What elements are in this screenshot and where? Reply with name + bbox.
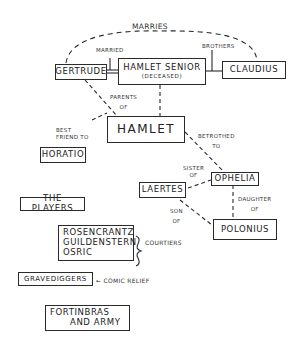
- node-hamlet: Hamlet: [107, 116, 185, 143]
- node-gravediggers: Gravediggers: [18, 272, 93, 286]
- label-married: Married: [96, 47, 124, 54]
- label-marries: Marries: [132, 22, 168, 32]
- label-of: of: [110, 104, 137, 111]
- node-gertrude: Gertrude: [55, 64, 107, 80]
- node-claudius: Claudius: [222, 61, 286, 79]
- label-sister: Sister: [183, 165, 204, 172]
- label-best-friend-to: Best friend to: [56, 127, 89, 141]
- hamlet-senior-note: (Deceased): [142, 73, 182, 79]
- label-son-of: Son of: [170, 208, 183, 225]
- label-sister-of: Sister of: [183, 165, 204, 179]
- node-horatio: Horatio: [40, 147, 86, 163]
- label-betrothed-to: Betrothed to: [198, 133, 235, 150]
- label-daughter-of-of: of: [238, 206, 271, 213]
- node-hamlet-senior: Hamlet Senior (Deceased): [118, 58, 206, 85]
- label-son-of-of: of: [170, 218, 183, 225]
- node-polonius: Polonius: [213, 219, 277, 240]
- label-parents: Parents: [110, 94, 137, 101]
- courtier-osric: Osric: [63, 248, 92, 258]
- label-to: to: [198, 143, 235, 150]
- label-parents-of: Parents of: [110, 94, 137, 111]
- label-brothers: Brothers: [202, 43, 235, 50]
- hamlet-senior-name: Hamlet Senior: [123, 63, 201, 73]
- node-fortinbras: Fortinbras and Army: [45, 305, 130, 331]
- annotation-comic-relief: ← Comic Relief: [96, 277, 149, 285]
- label-best: Best: [56, 127, 89, 134]
- node-courtiers: Rosencrantz Guildenstern Osric: [58, 225, 134, 261]
- label-daughter-of: Daughter of: [238, 196, 271, 213]
- node-the-players: The Players: [20, 197, 85, 211]
- label-daughter: Daughter: [238, 196, 271, 203]
- label-friend-to: friend to: [56, 134, 89, 141]
- fortinbras-army: and Army: [50, 318, 120, 328]
- node-laertes: Laertes: [139, 182, 186, 198]
- label-betrothed: Betrothed: [198, 133, 235, 140]
- label-sister-of-of: of: [183, 172, 204, 179]
- label-son: Son: [170, 208, 183, 215]
- node-ophelia: Ophelia: [211, 172, 259, 186]
- annotation-courtiers: Courtiers: [145, 239, 182, 247]
